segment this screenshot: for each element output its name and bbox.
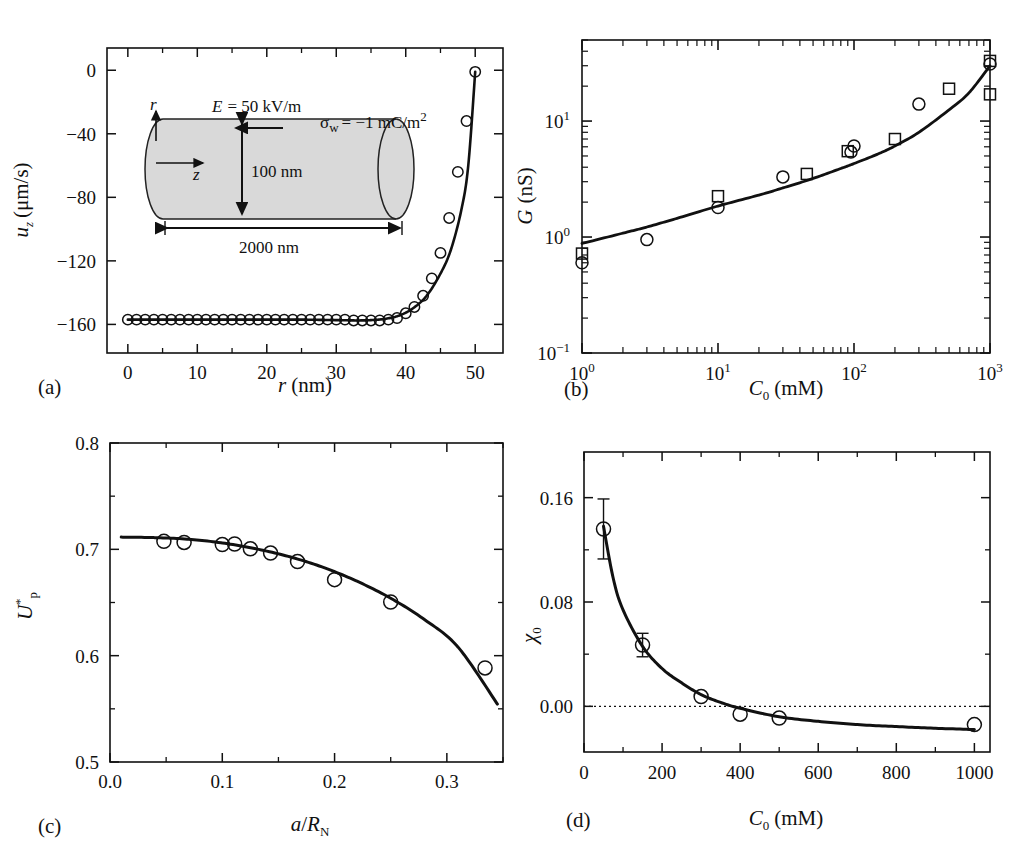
panel-c-svg: 0.00.10.20.30.50.60.70.8 a/RN U*p (c) [0, 420, 518, 843]
tick-label: −160 [57, 314, 96, 335]
tick-label: 101 [705, 360, 731, 384]
panel-c: 0.00.10.20.30.50.60.70.8 a/RN U*p (c) [0, 420, 518, 843]
panel-b-label: (b) [564, 377, 589, 401]
data-point-circle [913, 98, 925, 110]
tick-label: 0.6 [75, 646, 99, 667]
panel-b-theory-curve [582, 66, 990, 244]
panel-c-xlabel: a/RN [291, 812, 330, 839]
panel-d-data-markers [597, 499, 982, 732]
panel-a-svg: 010203040500−40−80−120−160 [0, 0, 518, 420]
tick-label: −40 [66, 124, 96, 145]
panel-c-data-markers [157, 534, 492, 675]
inset-surface-charge-label: σw= −1 mC/m2 [320, 109, 427, 135]
tick-label: 0.3 [435, 771, 459, 792]
data-point-circle [435, 248, 445, 258]
tick-label: −120 [57, 251, 96, 272]
tick-label: 600 [804, 762, 833, 783]
panel-c-ylabel: U*p [12, 592, 40, 620]
tick-label: 101 [545, 108, 571, 132]
tick-label: 0 [123, 362, 133, 383]
inset-axis-z-label: z [192, 165, 200, 184]
inset-field-label: E= 50 kV/m [211, 97, 301, 116]
panel-d-ylabel: χ0 [517, 627, 544, 645]
tick-label: 0.08 [540, 592, 573, 613]
panel-d-label: (d) [566, 808, 591, 832]
panel-b-xlabel: C0(mM) [749, 376, 824, 403]
tick-label: 10 [188, 362, 207, 383]
data-point-circle [461, 116, 471, 126]
tick-label: 0.00 [540, 696, 573, 717]
data-point-circle [641, 234, 653, 246]
inset-length-label: 2000 nm [239, 238, 299, 257]
tick-label: 0.7 [75, 539, 99, 560]
inset-diameter-label: 100 nm [251, 162, 302, 181]
theory-curve-path [121, 537, 497, 704]
data-point-circle [444, 213, 454, 223]
tick-label: 0.16 [540, 488, 573, 509]
tick-label: 20 [257, 362, 276, 383]
panel-a-label: (a) [38, 375, 61, 399]
theory-curve-path [582, 66, 990, 244]
tick-label: 50 [466, 362, 485, 383]
data-point-circle [777, 171, 789, 183]
tick-label: 10−1 [537, 340, 570, 364]
data-point-circle [427, 273, 437, 283]
tick-label: 0.2 [323, 771, 347, 792]
panel-b: 10010110210310−1100101 C0(mM) G(nS) (b) [518, 0, 1036, 420]
panel-a-ylabel: uz(μm/s) [9, 162, 36, 237]
tick-label: 0.1 [210, 771, 234, 792]
theory-curve-path [604, 526, 975, 729]
panel-b-svg: 10010110210310−1100101 C0(mM) G(nS) (b) [518, 0, 1036, 420]
tick-label: 800 [882, 762, 911, 783]
tick-label: 0.0 [98, 771, 122, 792]
data-point-circle [453, 167, 463, 177]
tick-label: 0.8 [75, 433, 99, 454]
inset-axis-r-label: r [150, 95, 157, 114]
tick-label: 400 [726, 762, 755, 783]
panel-d-ticks: 020040060080010000.000.080.16 [540, 452, 994, 783]
data-point-circle [478, 661, 492, 675]
tick-label: 0 [87, 60, 97, 81]
panel-a-xlabel: r(nm) [278, 373, 332, 397]
panel-a: 010203040500−40−80−120−160 [0, 0, 518, 420]
data-point-square [944, 83, 955, 94]
tick-label: 0 [579, 762, 589, 783]
data-point-circle [328, 573, 342, 587]
panel-d-svg: 020040060080010000.000.080.16 C0(mM) χ0 … [518, 420, 1036, 843]
figure-root: 010203040500−40−80−120−160 [0, 0, 1036, 843]
panel-c-label: (c) [38, 814, 61, 838]
panel-c-theory-curve [121, 537, 497, 704]
tick-label: 103 [977, 360, 1003, 384]
panel-d: 020040060080010000.000.080.16 C0(mM) χ0 … [518, 420, 1036, 843]
tick-label: −80 [66, 187, 96, 208]
tick-label: 1000 [955, 762, 993, 783]
panel-b-ylabel: G(nS) [513, 167, 537, 224]
panel-b-ticks: 10010110210310−1100101 [537, 40, 1003, 384]
panel-c-ticks: 0.00.10.20.30.50.60.70.8 [75, 433, 503, 792]
panel-b-frame [582, 40, 990, 353]
tick-label: 100 [545, 224, 571, 248]
panel-c-frame [110, 443, 503, 762]
tick-label: 102 [841, 360, 867, 384]
tick-label: 200 [648, 762, 677, 783]
data-point-square [713, 191, 724, 202]
panel-b-data-markers [576, 55, 996, 268]
tick-label: 0.5 [75, 752, 99, 773]
panel-d-xlabel: C0(mM) [749, 806, 824, 833]
panel-d-theory-curve [604, 526, 975, 729]
tick-label: 40 [396, 362, 415, 383]
